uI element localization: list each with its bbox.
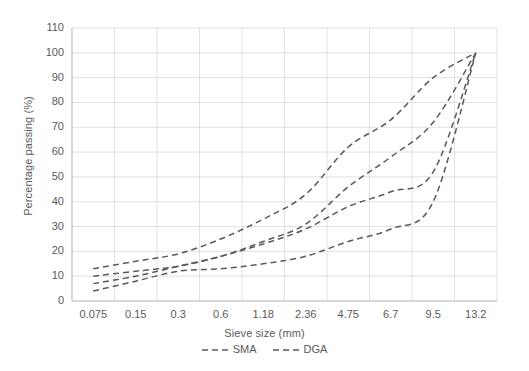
sieve-gradation-chart: Percentage passing (%) 01020304050607080… [0, 0, 529, 371]
y-tick-label: 20 [24, 244, 64, 256]
legend-entry[interactable]: SMA [202, 344, 257, 355]
legend-label: SMA [233, 344, 257, 355]
x-tick-label: 13.2 [446, 308, 506, 320]
y-tick-label: 50 [24, 170, 64, 182]
legend-dashed-line-icon [273, 345, 299, 355]
y-tick-label: 60 [24, 145, 64, 157]
x-axis-title: Sieve size (mm) [0, 327, 529, 339]
y-tick-label: 100 [24, 46, 64, 58]
y-tick-label: 30 [24, 220, 64, 232]
legend-entry[interactable]: DGA [273, 344, 328, 355]
legend-label: DGA [304, 344, 328, 355]
y-tick-label: 80 [24, 95, 64, 107]
chart-legend: SMADGA [0, 344, 529, 355]
y-tick-label: 40 [24, 195, 64, 207]
legend-dashed-line-icon [202, 345, 228, 355]
y-tick-label: 70 [24, 120, 64, 132]
y-tick-label: 10 [24, 269, 64, 281]
y-tick-label: 110 [24, 21, 64, 33]
y-tick-label: 0 [24, 294, 64, 306]
y-tick-label: 90 [24, 71, 64, 83]
